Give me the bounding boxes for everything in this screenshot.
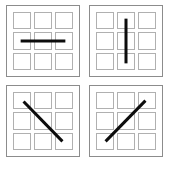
grid-cell [55, 32, 73, 49]
grid-cell [34, 32, 52, 49]
panel-horizontal [6, 5, 80, 77]
figure-caption [0, 160, 169, 173]
grid-cell [138, 112, 156, 129]
grid-cell [96, 53, 114, 70]
grid-cell [13, 32, 31, 49]
cell-grid [96, 12, 156, 70]
grid-cell [55, 133, 73, 150]
grid-cell [34, 112, 52, 129]
grid-cell [96, 92, 114, 109]
grid-cell [55, 92, 73, 109]
panel-vertical [89, 5, 163, 77]
panel-diagonal-down [6, 85, 80, 157]
grid-cell [13, 92, 31, 109]
grid-cell [55, 112, 73, 129]
grid-cell [117, 53, 135, 70]
grid-cell [117, 112, 135, 129]
grid-cell [138, 92, 156, 109]
grid-cell [117, 12, 135, 29]
grid-cell [13, 112, 31, 129]
grid-cell [55, 53, 73, 70]
grid-cell [13, 133, 31, 150]
grid-cell [34, 12, 52, 29]
grid-cell [138, 53, 156, 70]
grid-cell [34, 92, 52, 109]
grid-cell [117, 32, 135, 49]
cell-grid [96, 92, 156, 150]
grid-cell [96, 12, 114, 29]
grid-cell [55, 12, 73, 29]
grid-cell [138, 12, 156, 29]
grid-cell [96, 32, 114, 49]
grid-cell [13, 12, 31, 29]
panel-grid [6, 5, 163, 157]
cell-grid [13, 12, 73, 70]
grid-cell [34, 133, 52, 150]
grid-cell [34, 53, 52, 70]
cell-grid [13, 92, 73, 150]
orientation-stimuli-figure [0, 0, 169, 173]
panel-diagonal-up [89, 85, 163, 157]
grid-cell [13, 53, 31, 70]
grid-cell [138, 32, 156, 49]
grid-cell [96, 112, 114, 129]
grid-cell [117, 92, 135, 109]
grid-cell [96, 133, 114, 150]
grid-cell [117, 133, 135, 150]
grid-cell [138, 133, 156, 150]
